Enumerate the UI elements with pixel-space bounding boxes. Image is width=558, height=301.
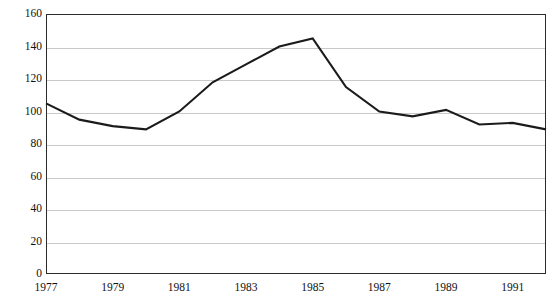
- line-chart: 020406080100120140160 197719791981198319…: [0, 0, 558, 301]
- series-layer: [0, 0, 558, 301]
- data-line-index: [46, 38, 546, 129]
